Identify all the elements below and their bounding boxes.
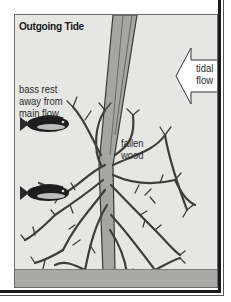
- riverbed-ground: [15, 269, 217, 287]
- diagram-title: Outgoing Tide: [19, 20, 84, 32]
- label-fallen-wood: fallen wood: [121, 137, 144, 161]
- tidal-flow-arrow: tidal flow: [175, 47, 218, 105]
- illustration-panel: Outgoing Tide bass rest away from main f…: [14, 14, 218, 288]
- bass-fish-icon: [20, 185, 69, 201]
- label-bass-rest: bass rest away from main flow: [19, 83, 63, 119]
- tidal-flow-label: tidal flow: [196, 62, 213, 86]
